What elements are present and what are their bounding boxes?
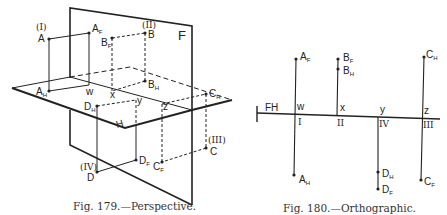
roman-i: I [298, 117, 302, 127]
plane-label-f: F [178, 28, 186, 43]
label-bf-ortho: BF [343, 52, 354, 64]
label-bh: BH [148, 79, 159, 91]
label-c: C [210, 146, 217, 157]
frontal-plane-lower [70, 110, 192, 205]
label-d: D [87, 172, 94, 183]
roman-iv: IV [379, 119, 390, 129]
label-df: DF [139, 155, 150, 167]
caption-fig-179: Fig. 179.—Perspective. [73, 200, 196, 212]
mark-y: y [380, 104, 385, 115]
label-ch: CH [209, 88, 221, 100]
plane-label-h: H [115, 117, 125, 129]
roman-ii: II [337, 118, 345, 128]
label-ah-ortho: AH [299, 174, 310, 186]
roman-iii: III [423, 120, 434, 130]
mark-w: w [296, 101, 305, 112]
projector-line-a [294, 59, 296, 175]
point-dots [47, 31, 207, 173]
projector-a [49, 33, 89, 91]
label-dh-ortho: DH [382, 168, 394, 180]
axis-mark-z: z [163, 101, 168, 112]
horizontal-plane-right-edge [192, 100, 232, 110]
axis-mark-y: y [137, 95, 142, 106]
projector-c [162, 94, 206, 162]
diagram-canvas: F H (I) A AF AH w (II) B BF BH x CH (III… [0, 0, 447, 215]
label-a: A [38, 33, 45, 44]
label-af: AF [92, 23, 103, 35]
mark-z: z [424, 105, 429, 116]
axis-mark-x: x [110, 89, 115, 100]
projector-line-b [337, 59, 338, 115]
projector-d [97, 106, 136, 172]
label-ch-ortho: CH [426, 49, 438, 61]
caption-fig-180: Fig. 180.—Orthographic. [283, 202, 416, 214]
label-b: B [148, 29, 155, 40]
label-df-ortho: DF [382, 184, 393, 196]
axis-mark-w: w [85, 86, 94, 97]
quadrant-label-i: (I) [36, 22, 47, 32]
label-af-ortho: AF [300, 51, 311, 63]
fh-ground-line [257, 113, 440, 119]
label-bh-ortho: BH [343, 65, 354, 77]
mark-x: x [340, 102, 345, 113]
figure-180-labels: FH AF w I AH BF BH x II y IV DH DF CH z … [265, 49, 438, 214]
figure-179-perspective [12, 8, 232, 205]
label-dh: DH [84, 101, 96, 113]
label-ah: AH [36, 86, 47, 98]
label-cf-ortho: CF [424, 176, 435, 188]
quadrant-label-iv: (IV) [80, 162, 97, 172]
label-bf: BF [101, 37, 112, 49]
quadrant-label-iii: (III) [208, 135, 226, 145]
ortho-point-dots [292, 55, 425, 190]
label-fh: FH [265, 102, 278, 113]
projector-b [112, 33, 145, 91]
figure-179-labels: F H (I) A AF AH w (II) B BF BH x CH (III… [36, 20, 226, 212]
